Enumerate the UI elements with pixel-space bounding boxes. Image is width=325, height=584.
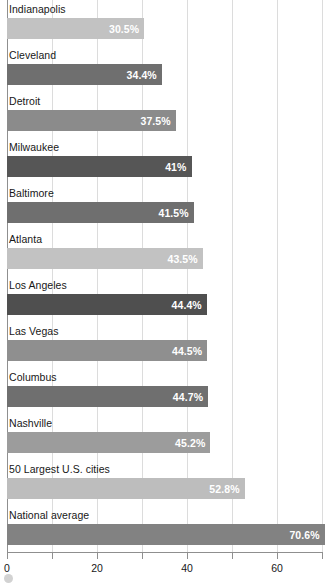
x-axis: 0204060 [0,552,325,584]
bar-value-label: 41.5% [158,207,188,219]
bar: 44.4% [7,294,207,315]
x-tick-label-60: 60 [271,562,283,574]
x-axis-line [7,552,323,553]
bar: 45.2% [7,432,210,453]
bar-value-label: 44.5% [172,345,202,357]
bar-value-label: 52.8% [209,483,239,495]
category-label: Los Angeles [9,279,67,292]
bar-chart: Indianapolis30.5%Cleveland34.4%Detroit37… [0,0,325,584]
bar: 44.7% [7,386,208,407]
x-tick-label-40: 40 [181,562,193,574]
category-label: Baltimore [9,187,54,200]
bar: 44.5% [7,340,207,361]
x-tick-40 [187,552,188,559]
bar-value-label: 44.7% [173,391,203,403]
bar-row: Nashville45.2% [0,414,325,460]
category-label: Detroit [9,95,40,108]
bar-value-label: 30.5% [109,23,139,35]
x-tick-20 [97,552,98,559]
x-tick-70 [322,552,323,559]
category-label: Nashville [9,417,52,430]
bar-rows: Indianapolis30.5%Cleveland34.4%Detroit37… [0,0,325,552]
bar: 70.6% [7,524,325,545]
category-label: Milwaukee [9,141,59,154]
bar-value-label: 41% [165,161,186,173]
bar-value-label: 70.6% [289,529,319,541]
bar: 52.8% [7,478,245,499]
bar-row: Detroit37.5% [0,92,325,138]
x-tick-0 [7,552,8,559]
bar-row: Cleveland34.4% [0,46,325,92]
x-tick-60 [277,552,278,559]
bar: 41% [7,156,192,177]
category-label: National average [9,509,89,522]
bar: 43.5% [7,248,203,269]
category-label: Las Vegas [9,325,59,338]
x-tick-30 [142,552,143,559]
category-label: Atlanta [9,233,42,246]
x-tick-50 [232,552,233,559]
bar: 41.5% [7,202,194,223]
x-tick-label-20: 20 [91,562,103,574]
bar-row: Atlanta43.5% [0,230,325,276]
plot-area: Indianapolis30.5%Cleveland34.4%Detroit37… [0,0,325,552]
bar-row: Las Vegas44.5% [0,322,325,368]
bar-row: Los Angeles44.4% [0,276,325,322]
bar-value-label: 34.4% [127,69,157,81]
bar: 30.5% [7,18,144,39]
bar-row: 50 Largest U.S. cities52.8% [0,460,325,506]
bar-row: Baltimore41.5% [0,184,325,230]
category-label: 50 Largest U.S. cities [9,463,110,476]
x-tick-10 [52,552,53,559]
bar-value-label: 37.5% [140,115,170,127]
bar-value-label: 43.5% [167,253,197,265]
bar: 37.5% [7,110,176,131]
x-tick-label-0: 0 [4,562,10,574]
bar: 34.4% [7,64,162,85]
category-label: Cleveland [9,49,56,62]
bar-value-label: 45.2% [175,437,205,449]
bar-row: National average70.6% [0,506,325,552]
bar-row: Milwaukee41% [0,138,325,184]
footer-dot-icon [4,574,13,583]
bar-value-label: 44.4% [172,299,202,311]
bar-row: Indianapolis30.5% [0,0,325,46]
category-label: Columbus [9,371,57,384]
category-label: Indianapolis [9,3,66,16]
bar-row: Columbus44.7% [0,368,325,414]
